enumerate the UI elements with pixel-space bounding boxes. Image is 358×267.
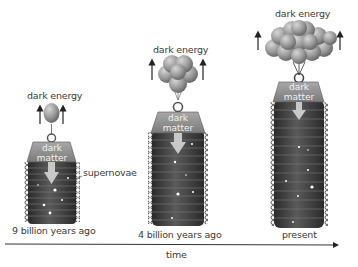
time-axis-label: time xyxy=(166,249,187,260)
dark-matter-label: dark matter xyxy=(158,113,198,133)
time-label-present: present xyxy=(282,229,317,240)
dark-energy-label: dark energy xyxy=(153,44,208,55)
dark-matter-label: dark matter xyxy=(33,143,71,163)
dark-matter-label: dark matter xyxy=(279,82,319,102)
time-axis-arrow xyxy=(5,244,336,245)
supernovae-label: supernovae xyxy=(83,167,137,178)
time-label-4-billion: 4 billion years ago xyxy=(138,229,222,240)
balloon-cluster-icon xyxy=(265,20,337,64)
balloon-icon xyxy=(44,103,60,123)
panel-present xyxy=(258,20,340,228)
dark-energy-label: dark energy xyxy=(27,90,82,101)
dark-energy-label: dark energy xyxy=(275,8,330,19)
balloon-cluster-icon xyxy=(158,55,198,93)
panel-4-billion-years-ago xyxy=(148,55,208,226)
panel-9-billion-years-ago xyxy=(24,103,82,224)
time-label-9-billion: 9 billion years ago xyxy=(12,225,96,236)
